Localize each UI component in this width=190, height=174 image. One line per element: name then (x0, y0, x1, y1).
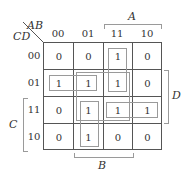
cell-cd10-ab11: 0 (103, 124, 133, 151)
bracket-d (164, 70, 169, 124)
bracket-b (74, 153, 134, 158)
row-label-11: 11 (26, 105, 42, 115)
cell-cd00-ab11: 1 (103, 43, 133, 70)
row-label-00: 00 (26, 51, 42, 61)
bracket-d-label: D (172, 90, 181, 101)
cell-cd00-ab01: 0 (74, 43, 104, 70)
cell-cd00-ab10: 0 (133, 43, 163, 70)
bracket-c (23, 98, 28, 152)
col-label-01: 01 (73, 29, 103, 39)
bracket-a-label: A (128, 11, 136, 22)
bracket-b-label: B (98, 160, 106, 171)
row-variable-label: CD (13, 31, 30, 42)
cell-cd01-ab00: 1 (44, 70, 74, 97)
col-label-11: 11 (102, 29, 132, 39)
cell-cd00-ab00: 0 (44, 43, 74, 70)
cell-cd01-ab01: 1 (74, 70, 104, 97)
cell-cd10-ab00: 0 (44, 124, 74, 151)
cell-cd11-ab01: 1 (74, 97, 104, 124)
col-label-10: 10 (132, 29, 162, 39)
bracket-a (104, 24, 162, 29)
cell-cd01-ab10: 0 (133, 70, 163, 97)
cell-cd10-ab01: 1 (74, 124, 104, 151)
col-label-00: 00 (43, 29, 73, 39)
kmap-grid: 0 0 1 0 1 1 1 0 0 1 1 1 0 1 0 0 (43, 42, 162, 150)
bracket-c-label: C (9, 119, 17, 130)
cell-cd01-ab11: 1 (103, 70, 133, 97)
cell-cd10-ab10: 0 (133, 124, 163, 151)
row-label-01: 01 (26, 78, 42, 88)
cell-cd11-ab00: 0 (44, 97, 74, 124)
cell-cd11-ab11: 1 (103, 97, 133, 124)
row-label-10: 10 (26, 132, 42, 142)
cell-cd11-ab10: 1 (133, 97, 163, 124)
